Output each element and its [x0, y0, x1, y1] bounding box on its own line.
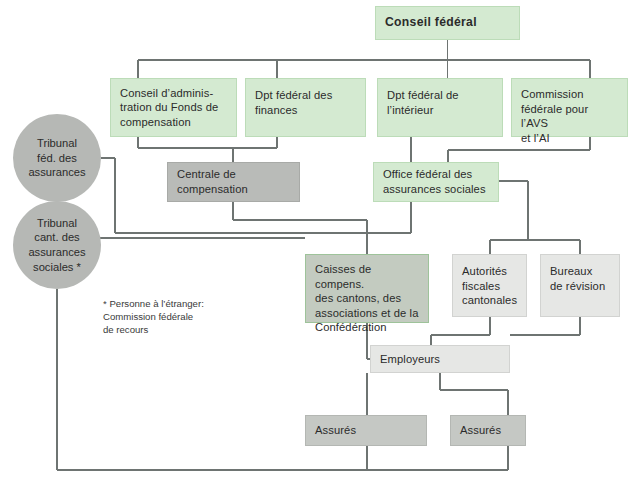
node-conseil-administration[interactable]: Conseil d’adminis- tration du Fonds de c… — [110, 78, 237, 137]
node-centrale-compensation[interactable]: Centrale de compensation — [167, 162, 300, 202]
node-label: Assurés — [460, 423, 501, 438]
footnote-text: * Personne à l’étranger: Commission fédé… — [103, 297, 283, 337]
node-tribunal-federal[interactable]: Tribunal féd. des assurances — [13, 114, 101, 202]
node-conseil-federal[interactable]: Conseil fédéral — [375, 6, 520, 40]
node-label: Assurés — [315, 423, 356, 438]
org-chart-diagram: Conseil fédéral Conseil d’adminis- trati… — [0, 0, 633, 482]
node-employeurs[interactable]: Employeurs — [370, 345, 510, 373]
node-commission-avs-ai[interactable]: Commission fédérale pour l’AVS et l’AI — [511, 78, 628, 137]
node-label: Conseil d’adminis- tration du Fonds de c… — [120, 86, 218, 130]
node-caisses-compensation[interactable]: Caisses de compens. des cantons, des ass… — [305, 254, 429, 323]
node-label: Dpt fédéral de l’intérieur — [387, 88, 459, 117]
node-dpt-finances[interactable]: Dpt fédéral des finances — [245, 78, 366, 137]
node-label: Centrale de compensation — [177, 167, 248, 196]
node-assures-left[interactable]: Assurés — [305, 415, 427, 446]
node-label: Tribunal féd. des assurances — [28, 136, 85, 180]
node-label: Dpt fédéral des finances — [255, 88, 332, 117]
node-label: Bureaux de révision — [550, 264, 605, 293]
node-bureaux-revision[interactable]: Bureaux de révision — [540, 254, 620, 317]
node-label: Commission fédérale pour l’AVS et l’AI — [521, 87, 618, 145]
node-label: Caisses de compens. des cantons, des ass… — [315, 262, 419, 335]
node-office-federal[interactable]: Office fédéral des assurances sociales — [373, 162, 499, 202]
node-assures-right[interactable]: Assurés — [450, 415, 526, 446]
node-dpt-interieur[interactable]: Dpt fédéral de l’intérieur — [377, 78, 503, 137]
node-label: Employeurs — [380, 352, 440, 367]
node-label: Office fédéral des assurances sociales — [383, 167, 486, 196]
node-label: Conseil fédéral — [385, 15, 477, 31]
node-label: Tribunal cant. des assurances sociales * — [28, 216, 85, 274]
node-tribunal-cantonal[interactable]: Tribunal cant. des assurances sociales * — [13, 201, 101, 289]
node-autorites-fiscales[interactable]: Autorités fiscales cantonales — [452, 254, 527, 317]
node-label: Autorités fiscales cantonales — [462, 264, 517, 308]
